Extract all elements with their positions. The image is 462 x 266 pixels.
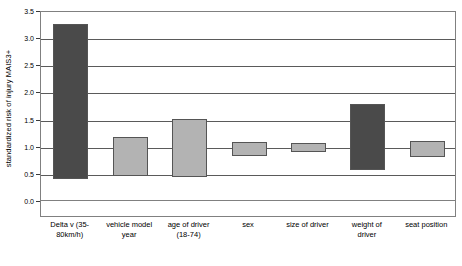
y-tick-label: 0.5 (24, 170, 34, 177)
gridline (41, 93, 455, 94)
bar-vehicle-model-year[interactable] (113, 137, 148, 176)
y-tick-label: 1.5 (24, 116, 34, 123)
y-tick-label: 1.0 (24, 143, 34, 150)
gridline (41, 175, 455, 176)
y-tick-mark (36, 92, 40, 93)
gridline (41, 39, 455, 40)
x-axis-category-labels: Delta v (35-80km/h)vehicle modelyearage … (40, 220, 456, 260)
y-tick-label: 3.0 (24, 35, 34, 42)
y-tick-label: 0.0 (24, 198, 34, 205)
x-label-line: (18-74) (159, 230, 218, 240)
gridline (41, 121, 455, 122)
x-axis-label-3: sex (218, 220, 277, 230)
y-tick-mark (36, 120, 40, 121)
bar-age-of-driver-18-74[interactable] (172, 119, 207, 177)
y-tick-label: 3.5 (24, 8, 34, 15)
x-axis-label-1: vehicle modelyear (99, 220, 158, 240)
x-label-line: 80km/h) (40, 230, 99, 240)
x-label-line: weight of (337, 220, 396, 230)
y-axis-title: standardized risk of injury MAIS3+ (0, 0, 18, 216)
x-axis-label-5: weight ofdriver (337, 220, 396, 240)
gridline (41, 66, 455, 67)
y-tick-mark (36, 201, 40, 202)
x-label-line: vehicle model (99, 220, 158, 230)
y-tick-mark (36, 38, 40, 39)
bar-size-of-driver[interactable] (291, 143, 326, 152)
x-label-line: Delta v (35- (40, 220, 99, 230)
bar-weight-of-driver[interactable] (350, 104, 385, 170)
x-axis-label-0: Delta v (35-80km/h) (40, 220, 99, 240)
bar-chart: standardized risk of injury MAIS3+ 0.00.… (0, 0, 462, 266)
bar-delta-v-35-80km-h[interactable] (53, 24, 88, 179)
y-tick-mark (36, 174, 40, 175)
bar-sex[interactable] (232, 142, 267, 156)
x-axis-label-4: size of driver (278, 220, 337, 230)
x-label-line: age of driver (159, 220, 218, 230)
x-label-line: sex (218, 220, 277, 230)
y-tick-mark (36, 11, 40, 12)
y-tick-label: 2.0 (24, 89, 34, 96)
bar-seat-position[interactable] (410, 141, 445, 157)
y-axis-title-text: standardized risk of injury MAIS3+ (5, 49, 14, 166)
x-label-line: seat position (397, 220, 456, 230)
plot-area (40, 11, 456, 201)
x-axis-label-6: seat position (397, 220, 456, 230)
x-label-line: year (99, 230, 158, 240)
y-tick-label: 2.5 (24, 62, 34, 69)
x-label-line: size of driver (278, 220, 337, 230)
y-axis-tick-labels: 0.00.51.01.52.02.53.03.5 (18, 11, 36, 201)
y-tick-mark (36, 147, 40, 148)
y-tick-mark (36, 65, 40, 66)
x-axis-label-2: age of driver(18-74) (159, 220, 218, 240)
x-label-line: driver (337, 230, 396, 240)
